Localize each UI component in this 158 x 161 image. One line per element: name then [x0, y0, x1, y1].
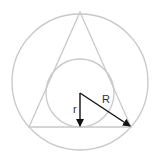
inner-radius-label: r [73, 103, 77, 115]
circumscribed-circle [12, 14, 148, 150]
geometry-diagram: r R [0, 0, 158, 161]
outer-radius-label: R [102, 93, 110, 105]
